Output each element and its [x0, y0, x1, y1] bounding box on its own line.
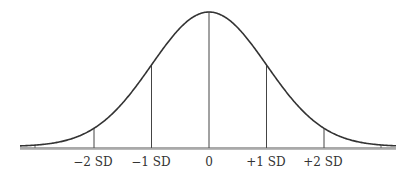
tick-label-plus-1sd: +1 SD: [246, 155, 285, 169]
tick-label-plus-2sd: +2 SD: [303, 155, 342, 169]
x-tick-labels: −2 SD −1 SD 0 +1 SD +2 SD: [73, 155, 342, 169]
tick-label-zero: 0: [205, 155, 213, 169]
bell-curve: [20, 12, 396, 146]
tick-label-minus-2sd: −2 SD: [73, 155, 112, 169]
normal-distribution-chart: −2 SD −1 SD 0 +1 SD +2 SD: [0, 0, 414, 178]
reference-lines: [94, 12, 324, 148]
tick-label-minus-1sd: −1 SD: [131, 155, 170, 169]
